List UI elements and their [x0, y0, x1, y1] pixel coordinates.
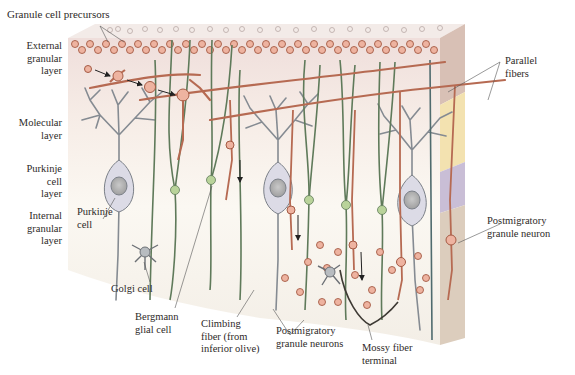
label-postmigratory-granule-neurons: Postmigratorygranule neurons — [276, 325, 343, 350]
label-mossy-fiber-terminal: Mossy fiberterminal — [362, 342, 412, 367]
top-face — [68, 24, 465, 38]
label-internal-granular-layer: Internalgranularlayer — [27, 210, 62, 248]
label-golgi-cell: Golgi cell — [111, 283, 153, 296]
label-parallel-fibers: Parallelfibers — [505, 55, 537, 80]
label-purkinje-cell-layer: Purkinjecelllayer — [26, 163, 62, 201]
cerebellar-cortex-diagram: Granule cell precursors Externalgranular… — [0, 0, 575, 375]
label-molecular-layer: Molecularlayer — [19, 117, 62, 142]
label-granule-cell-precursors: Granule cell precursors — [7, 8, 110, 21]
side-face — [440, 24, 465, 345]
label-climbing-fiber: Climbingfiber (frominferior olive) — [201, 318, 260, 356]
label-purkinje-cell: Purkinjecell — [77, 206, 113, 231]
label-external-granular-layer: Externalgranularlayer — [26, 40, 62, 78]
cortex-illustration — [0, 0, 575, 375]
label-bergmann-glial-cell: Bergmannglial cell — [135, 311, 179, 336]
label-postmigratory-granule-neuron: Postmigratorygranule neuron — [487, 215, 550, 240]
